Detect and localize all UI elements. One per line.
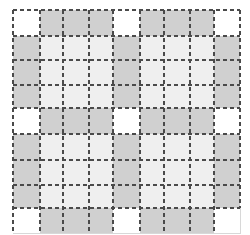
grid-cell-light[interactable] [40, 160, 63, 185]
grid-cell-light[interactable] [40, 185, 63, 208]
grid-cell-gray[interactable] [89, 10, 113, 36]
grid-cell-gray[interactable] [89, 108, 113, 134]
grid-cell-light[interactable] [164, 134, 190, 160]
grid-cell-gray[interactable] [40, 208, 63, 233]
grid-cell-white[interactable] [13, 108, 40, 134]
grid-cell-light[interactable] [140, 160, 164, 185]
grid-cell-gray[interactable] [214, 60, 240, 85]
grid-cell-light[interactable] [140, 36, 164, 60]
grid-cell-gray[interactable] [113, 60, 140, 85]
grid-cell-light[interactable] [164, 160, 190, 185]
grid-border-right-bottom [240, 208, 241, 233]
grid-cell-light[interactable] [89, 36, 113, 60]
grid-cell-gray[interactable] [140, 108, 164, 134]
grid-cell-light[interactable] [164, 60, 190, 85]
grid-cell-gray[interactable] [113, 36, 140, 60]
grid-cell-light[interactable] [164, 85, 190, 108]
grid-cell-light[interactable] [190, 185, 214, 208]
grid-cell-light[interactable] [63, 36, 89, 60]
grid-cell-white[interactable] [13, 10, 40, 36]
grid-cell-light[interactable] [40, 60, 63, 85]
grid-cell-gray[interactable] [113, 134, 140, 160]
grid-cell-gray[interactable] [13, 36, 40, 60]
grid-cell-light[interactable] [190, 36, 214, 60]
grid-cell-gray[interactable] [140, 208, 164, 233]
grid-cell-gray[interactable] [190, 108, 214, 134]
grid-cell-gray[interactable] [113, 185, 140, 208]
grid-cell-light[interactable] [40, 85, 63, 108]
grid-cell-white[interactable] [113, 108, 140, 134]
grid-cell-light[interactable] [164, 185, 190, 208]
grid-cell-light[interactable] [63, 85, 89, 108]
grid-cell-gray[interactable] [113, 85, 140, 108]
grid-cell-light[interactable] [89, 185, 113, 208]
grid-cell-light[interactable] [63, 134, 89, 160]
grid-cell-light[interactable] [164, 36, 190, 60]
grid-cell-gray[interactable] [214, 85, 240, 108]
grid-cell-gray[interactable] [164, 108, 190, 134]
grid-cell-light[interactable] [140, 60, 164, 85]
grid-cell-gray[interactable] [40, 10, 63, 36]
grid-cell-light[interactable] [190, 134, 214, 160]
grid-cell-gray[interactable] [13, 134, 40, 160]
grid-cell-gray[interactable] [214, 134, 240, 160]
grid-cell-gray[interactable] [164, 10, 190, 36]
grid-cell-gray[interactable] [89, 208, 113, 233]
grid-cell-white[interactable] [113, 10, 140, 36]
grid-cell-gray[interactable] [13, 85, 40, 108]
grid-cell-gray[interactable] [190, 10, 214, 36]
grid-cell-gray[interactable] [13, 160, 40, 185]
grid-cell-gray[interactable] [63, 10, 89, 36]
grid-cell-light[interactable] [89, 134, 113, 160]
grid-cell-white[interactable] [214, 208, 240, 233]
grid-cell-gray[interactable] [164, 208, 190, 233]
grid-cell-gray[interactable] [214, 185, 240, 208]
grid-cell-gray[interactable] [63, 208, 89, 233]
grid-cell-gray[interactable] [190, 208, 214, 233]
grid-cell-light[interactable] [140, 185, 164, 208]
grid-cell-light[interactable] [89, 60, 113, 85]
grid-cell-light[interactable] [140, 85, 164, 108]
grid-cell-white[interactable] [13, 208, 40, 233]
grid-cell-light[interactable] [89, 85, 113, 108]
grid-cell-white[interactable] [113, 208, 140, 233]
grid-cell-gray[interactable] [13, 185, 40, 208]
grid-cell-light[interactable] [40, 134, 63, 160]
grid-cell-light[interactable] [190, 160, 214, 185]
tile-grid [0, 0, 250, 235]
grid-cell-white[interactable] [214, 10, 240, 36]
grid-cell-light[interactable] [140, 134, 164, 160]
grid-border-bottom [13, 233, 241, 234]
grid-cell-gray[interactable] [13, 60, 40, 85]
grid-cell-gray[interactable] [214, 36, 240, 60]
grid-cell-light[interactable] [63, 185, 89, 208]
grid-cell-light[interactable] [190, 60, 214, 85]
grid-cell-white[interactable] [214, 108, 240, 134]
grid-cell-gray[interactable] [40, 108, 63, 134]
grid-cell-light[interactable] [40, 36, 63, 60]
grid-cell-light[interactable] [190, 85, 214, 108]
grid-cell-light[interactable] [89, 160, 113, 185]
grid-cell-light[interactable] [63, 60, 89, 85]
grid-cell-gray[interactable] [113, 160, 140, 185]
grid-cell-light[interactable] [63, 160, 89, 185]
grid-cell-gray[interactable] [140, 10, 164, 36]
grid-cell-gray[interactable] [214, 160, 240, 185]
grid-cell-gray[interactable] [63, 108, 89, 134]
